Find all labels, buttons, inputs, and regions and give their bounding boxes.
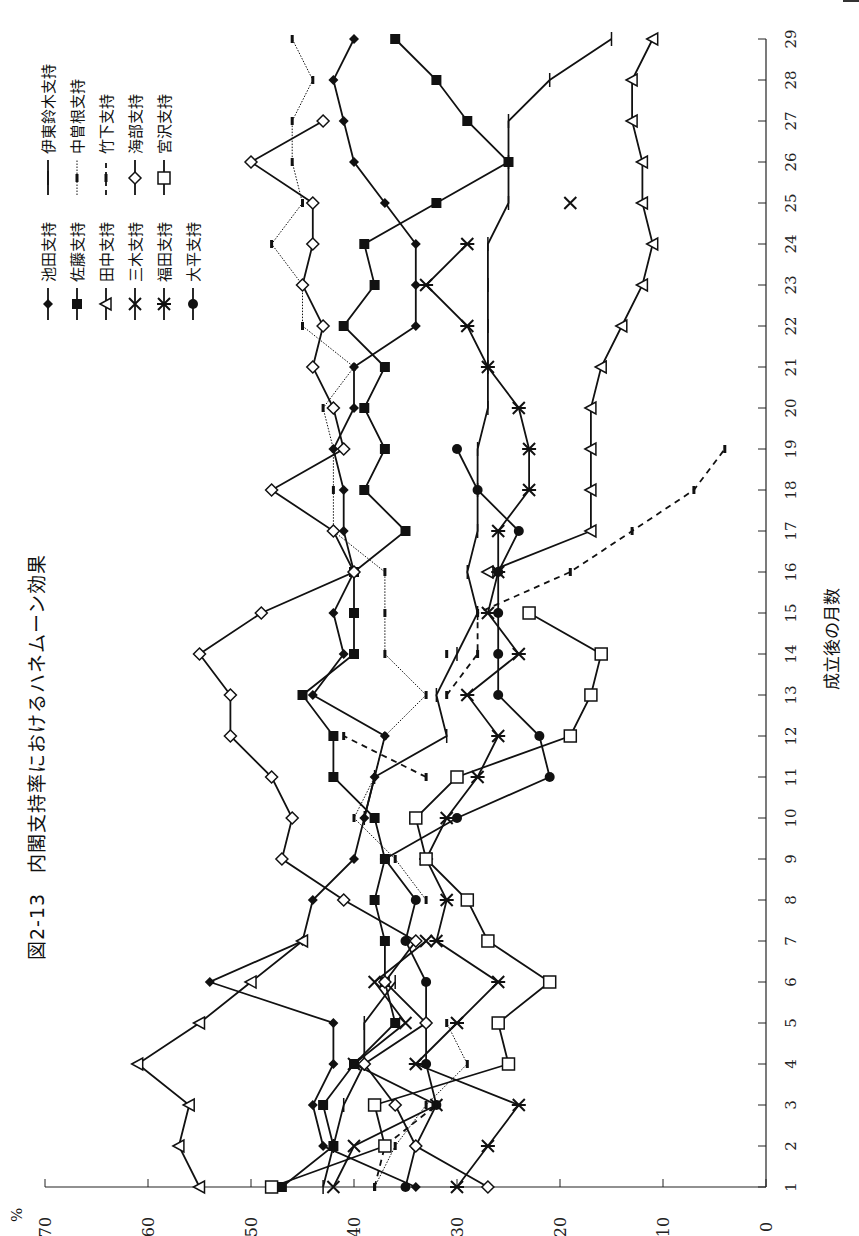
y-tick-label: 40 [345,1217,364,1236]
x-tick-label: 3 [782,1100,800,1110]
legend-label: 中曽根支持 [69,79,87,154]
y-tick-label: 50 [242,1217,261,1236]
x-tick-label: 24 [782,234,800,253]
x-tick-label: 13 [782,685,800,704]
y-tick-label: 70 [36,1217,55,1236]
series-4 [409,238,536,1193]
x-tick-label: 15 [782,603,800,622]
legend-label: 田中支持 [98,222,116,282]
y-tick-label: 10 [654,1217,673,1236]
x-tick-label: 19 [782,439,800,458]
x-tick-label: 2 [782,1141,800,1151]
x-tick-label: 17 [782,521,800,540]
legend-label: 福田支持 [156,222,174,282]
y-tick-label: 60 [139,1217,158,1236]
x-tick-label: 12 [782,726,800,745]
x-tick-label: 18 [782,480,800,499]
legend-label: 三木支持 [127,222,145,282]
x-tick-label: 9 [782,854,800,864]
legend-label: 伊東鈴木支持 [40,64,58,154]
y-tick-label: 20 [551,1217,570,1236]
x-tick-label: 16 [782,562,800,581]
x-tick-label: 7 [782,936,800,946]
x-tick-label: 29 [782,29,800,48]
legend-label: 宮沢支持 [156,94,174,154]
x-tick-label: 8 [782,895,800,905]
x-tick-label: 20 [782,398,800,417]
x-tick-label: 28 [782,70,800,89]
y-tick-label: 0 [757,1222,776,1232]
x-tick-label: 11 [782,767,800,786]
x-tick-label: 21 [782,357,800,376]
x-tick-label: 25 [782,193,800,212]
x-tick-label: 4 [782,1059,800,1069]
x-tick-label: 23 [782,275,800,294]
x-tick-label: 26 [782,152,800,171]
legend-label: 佐藤支持 [69,222,87,282]
legend-label: 海部支持 [127,94,145,154]
x-tick-label: 14 [782,644,800,663]
x-tick-label: 10 [782,808,800,827]
legend: 池田支持佐藤支持田中支持三木支持福田支持大平支持伊東鈴木支持中曽根支持竹下支持海… [40,64,203,320]
x-tick-label: 22 [782,316,800,335]
legend-label: 大平支持 [185,222,203,282]
x-tick-label: 5 [782,1018,800,1028]
x-tick-label: 1 [782,1182,800,1192]
series-8 [342,445,726,1191]
line-chart: 0102030405060701234567891011121314151617… [0,0,859,1236]
legend-label: 竹下支持 [98,94,116,154]
legend-label: 池田支持 [40,222,58,282]
chart-page: 図2-13 内閣支持率におけるハネムーン効果 成立後の月数 % 01020304… [0,0,859,1236]
x-tick-label: 6 [782,977,800,987]
y-tick-label: 30 [448,1217,467,1236]
x-tick-label: 27 [782,111,800,130]
